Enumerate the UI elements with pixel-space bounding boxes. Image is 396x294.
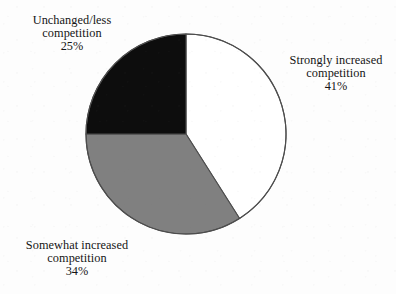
pie-label-somewhat-increased-competition: Somewhat increased competition 34% <box>12 239 142 279</box>
pie-label-strongly-increased-competition: Strongly increased competition 41% <box>276 54 396 94</box>
pie-chart-figure: Unchanged/less competition 25% Strongly … <box>0 0 396 294</box>
pie-label-value: 34% <box>12 265 142 278</box>
pie-label-unchanged-less-competition: Unchanged/less competition 25% <box>8 14 136 54</box>
pie-label-value: 41% <box>276 80 396 93</box>
pie-label-value: 25% <box>8 40 136 53</box>
